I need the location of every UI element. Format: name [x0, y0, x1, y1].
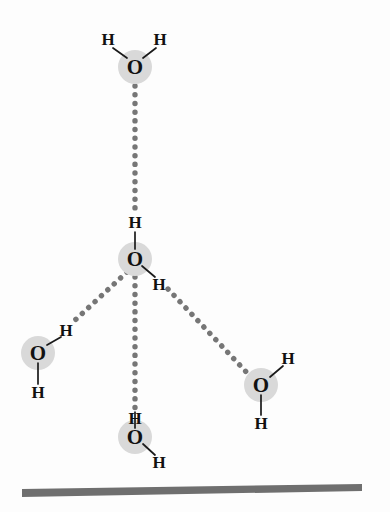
left-water-molecule-hydrogen-label-2: H [31, 383, 44, 402]
covalent-bond-layer [38, 48, 283, 455]
top-o-h-right [143, 48, 156, 58]
bottom-water-molecule-oxygen-label: O [127, 425, 143, 449]
top-water-molecule-hydrogen-label-1: H [101, 30, 114, 49]
top-water-molecule-hydrogen-label-2: H [153, 30, 166, 49]
atom-label-layer: OHHOHHOHHOHHOHH [30, 30, 295, 472]
right-water-molecule-hydrogen-label-2: H [254, 414, 267, 433]
central-water-molecule-hydrogen-label-1: H [128, 213, 141, 232]
left-water-molecule-oxygen-label: O [30, 341, 46, 365]
right-o-h-ur [270, 366, 283, 377]
substrate-surface-bar [22, 484, 362, 497]
top-o-h-left [113, 48, 127, 58]
oxygen-halo-layer [21, 50, 278, 454]
right-water-molecule-oxygen-label: O [253, 373, 269, 397]
right-water-molecule-hydrogen-label-1: H [281, 349, 294, 368]
bottom-water-molecule-hydrogen-label-1: H [128, 409, 141, 428]
hbond-center-to-left [73, 272, 127, 322]
surface-layer [22, 484, 362, 497]
left-water-molecule-hydrogen-label-1: H [59, 321, 72, 340]
molecular-diagram-canvas: OHHOHHOHHOHHOHH [0, 0, 390, 512]
central-water-molecule-hydrogen-label-2: H [152, 275, 165, 294]
hbond-center-to-right [168, 289, 251, 377]
central-water-molecule-oxygen-label: O [127, 247, 143, 271]
bottom-water-molecule-hydrogen-label-2: H [152, 453, 165, 472]
water-cluster-svg: OHHOHHOHHOHHOHH [0, 0, 390, 512]
top-water-molecule-oxygen-label: O [127, 55, 143, 79]
hydrogen-bond-layer [73, 86, 251, 408]
